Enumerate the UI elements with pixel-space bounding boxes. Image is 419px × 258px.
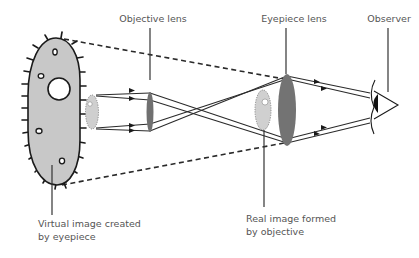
- light-rays: [96, 76, 370, 143]
- label-observer: Observer: [367, 13, 411, 24]
- label-eyepiece-lens: Eyepiece lens: [261, 13, 327, 24]
- dashed-line-top: [64, 39, 284, 79]
- objective-lens: [147, 92, 154, 132]
- vacuole-small-3: [36, 129, 42, 134]
- vacuole-small-1: [53, 49, 57, 55]
- dashed-line-bottom: [62, 143, 284, 185]
- label-objective-lens: Objective lens: [119, 13, 187, 24]
- vacuole-large: [48, 78, 70, 100]
- label-virtual-image-line2: by eyepiece: [38, 231, 96, 242]
- specimen-small-cell: [86, 95, 99, 129]
- label-real-image-line2: by objective: [246, 226, 304, 237]
- vacuole-small-4: [59, 158, 64, 164]
- vacuole-small-2: [38, 74, 44, 79]
- eyepiece-lens: [278, 74, 296, 146]
- real-image-small-cell: [255, 90, 271, 130]
- label-real-image-line1: Real image formed: [246, 213, 336, 224]
- eye-icon: [371, 80, 398, 134]
- microscope-diagram: Objective lens Eyepiece lens Observer Vi…: [0, 0, 419, 258]
- virtual-image-cell: [22, 32, 86, 189]
- label-virtual-image-line1: Virtual image created: [38, 218, 141, 229]
- cell-body: [28, 38, 80, 185]
